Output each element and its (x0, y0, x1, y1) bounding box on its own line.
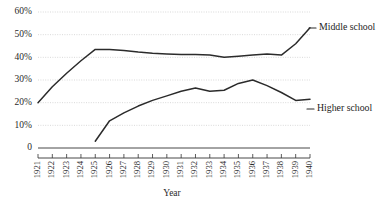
y-axis-tick-label: 20% (15, 97, 33, 107)
series-line-middle-school (38, 28, 310, 103)
x-axis-tick-label: 1934 (218, 160, 228, 178)
y-axis-tick-label: 50% (15, 29, 33, 39)
series-label-group: Middle schoolHigher school (307, 21, 376, 113)
x-axis-tick-label: 1928 (132, 161, 142, 178)
x-axis-tick-label: 1936 (247, 160, 257, 178)
x-axis-tick-label: 1932 (189, 161, 199, 178)
y-axis-tick-label: 40% (15, 52, 33, 62)
x-axis-tick-label: 1930 (161, 161, 171, 178)
x-axis-tick-label: 1937 (261, 160, 271, 178)
x-axis-tick-label: 1921 (32, 161, 42, 178)
chart-canvas: 010%20%30%40%50%60% 19211922192319241925… (0, 0, 379, 202)
y-axis-tick-labels: 010%20%30%40%50%60% (15, 6, 33, 152)
x-axis-tick-label: 1939 (290, 161, 300, 178)
x-axis-tick-marks (38, 154, 310, 158)
gridline-group (38, 12, 310, 148)
series-group (38, 28, 310, 141)
x-axis-tick-label: 1926 (104, 160, 114, 178)
x-axis-tick-label: 1922 (46, 161, 56, 178)
x-axis-tick-label: 1925 (89, 161, 99, 178)
x-axis-tick-label: 1923 (61, 161, 71, 178)
x-axis-tick-label: 1929 (146, 161, 156, 178)
x-axis-title: Year (163, 188, 181, 198)
x-axis-tick-label: 1938 (275, 161, 285, 178)
x-axis-tick-label: 1935 (232, 161, 242, 178)
x-axis-tick-label: 1933 (204, 161, 214, 178)
y-axis-tick-label: 60% (15, 6, 33, 16)
x-axis-tick-label: 1924 (75, 160, 85, 178)
line-chart: 010%20%30%40%50%60% 19211922192319241925… (0, 0, 379, 202)
series-line-higher-school (95, 80, 310, 141)
y-axis-tick-label: 0 (27, 142, 32, 152)
x-axis-tick-label: 1931 (175, 161, 185, 178)
x-axis-tick-label: 1927 (118, 160, 128, 178)
series-label-higher-school: Higher school (317, 102, 373, 113)
series-label-middle-school: Middle school (319, 21, 376, 32)
x-axis-tick-label: 1940 (304, 161, 314, 178)
x-axis-tick-labels: 1921192219231924192519261927192819291930… (32, 160, 314, 178)
y-axis-tick-label: 30% (15, 74, 33, 84)
y-axis-tick-label: 10% (15, 120, 33, 130)
